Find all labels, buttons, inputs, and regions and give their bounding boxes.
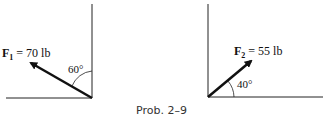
right-diagram: 40° F2 = 55 lb [208,4,323,97]
angle-arc-40 [228,81,234,97]
angle-label-60: 60° [68,63,83,75]
angle-label-40: 40° [237,78,252,90]
left-diagram: 60° F1 = 70 lb [2,4,92,98]
force-label-f1: F1 = 70 lb [2,46,50,62]
figure-caption: Prob. 2–9 [136,104,187,117]
force-label-f2: F2 = 55 lb [234,44,282,60]
force-diagram: 60° F1 = 70 lb 40° F2 = 55 lb Prob. 2–9 [0,0,323,118]
